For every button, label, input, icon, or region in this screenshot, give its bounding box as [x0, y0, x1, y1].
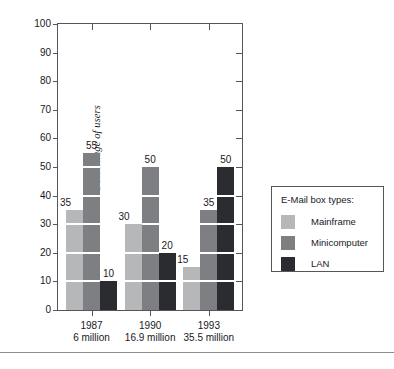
bar-value-label: 35: [203, 198, 214, 208]
legend-title: E-Mail box types:: [281, 194, 383, 205]
bar-chart-figure: Percentage of users 01020304050607080901…: [0, 0, 394, 369]
y-tick-mark: [53, 24, 58, 25]
legend-swatch: [281, 236, 295, 250]
y-tick-mark: [53, 253, 58, 254]
right-edge-tick: [236, 110, 242, 111]
plot-frame: Percentage of users 01020304050607080901…: [57, 23, 243, 311]
legend-swatch: [281, 257, 295, 271]
right-edge-tick: [236, 281, 242, 282]
y-tick-mark: [53, 167, 58, 168]
legend-item-label: Minicomputer: [311, 237, 368, 248]
y-tick-label: 60: [27, 133, 51, 143]
bar-group: 305020: [125, 24, 176, 310]
y-tick-label: 10: [27, 276, 51, 286]
y-tick-label: 30: [27, 219, 51, 229]
bar-segment-lines: [125, 224, 142, 310]
bar-segment-lines: [66, 210, 83, 310]
bar: 20: [159, 253, 176, 310]
y-tick-mark: [53, 53, 58, 54]
bar-segment-lines: [183, 267, 200, 310]
legend-box: E-Mail box types: MainframeMinicomputerL…: [271, 186, 384, 272]
y-tick-label: 20: [27, 248, 51, 258]
legend-items: MainframeMinicomputerLAN: [281, 212, 383, 273]
right-edge-tick: [236, 81, 242, 82]
x-axis-users: 35.5 million: [164, 332, 254, 344]
right-edge-tick: [236, 224, 242, 225]
legend-item: Minicomputer: [281, 233, 383, 252]
bar: 50: [142, 167, 159, 310]
bar-group: 355510: [66, 24, 117, 310]
bar-segment-lines: [159, 253, 176, 310]
y-tick-label: 70: [27, 105, 51, 115]
y-tick-mark: [53, 196, 58, 197]
y-tick-mark: [53, 81, 58, 82]
legend-item: LAN: [281, 254, 383, 273]
bar-value-label: 55: [86, 141, 97, 151]
x-bottom-tick: [150, 310, 151, 316]
legend-item-label: Mainframe: [311, 216, 356, 227]
bar: 30: [125, 224, 142, 310]
right-edge-tick: [236, 167, 242, 168]
bar-value-label: 50: [145, 155, 156, 165]
bar-value-label: 10: [103, 269, 114, 279]
y-tick-mark: [53, 224, 58, 225]
y-tick-label: 40: [27, 191, 51, 201]
right-edge-tick: [236, 138, 242, 139]
legend-swatch: [281, 215, 295, 229]
x-axis-year: 1993: [164, 320, 254, 332]
y-tick-mark: [53, 281, 58, 282]
bar: 55: [83, 153, 100, 310]
y-tick-mark: [53, 310, 58, 311]
right-edge-tick: [236, 253, 242, 254]
y-tick-mark: [53, 138, 58, 139]
x-bottom-tick: [92, 310, 93, 316]
x-axis-group-label: 199335.5 million: [164, 320, 254, 344]
bar: 35: [200, 210, 217, 310]
bar-segment-lines: [200, 210, 217, 310]
bottom-divider: [0, 352, 394, 353]
bar-value-label: 30: [119, 212, 130, 222]
bar-value-label: 20: [162, 241, 173, 251]
bar: 50: [217, 167, 234, 310]
y-tick-label: 50: [27, 162, 51, 172]
bar-segment-lines: [83, 153, 100, 310]
bar-group: 153550: [183, 24, 234, 310]
y-tick-label: 100: [27, 19, 51, 29]
y-tick-label: 90: [27, 48, 51, 58]
bar-value-label: 15: [177, 255, 188, 265]
bar: 10: [100, 281, 117, 310]
bar-value-label: 35: [60, 198, 71, 208]
right-edge-tick: [236, 53, 242, 54]
legend-item: Mainframe: [281, 212, 383, 231]
y-tick-label: 0: [27, 305, 51, 315]
bar-segment-lines: [217, 167, 234, 310]
bar-segment-lines: [100, 281, 117, 310]
right-edge-tick: [236, 196, 242, 197]
bar: 15: [183, 267, 200, 310]
x-bottom-tick: [209, 310, 210, 316]
bar: 35: [66, 210, 83, 310]
y-tick-label: 80: [27, 76, 51, 86]
y-tick-mark: [53, 110, 58, 111]
bar-value-label: 50: [220, 155, 231, 165]
bar-segment-lines: [142, 167, 159, 310]
legend-item-label: LAN: [311, 258, 329, 269]
